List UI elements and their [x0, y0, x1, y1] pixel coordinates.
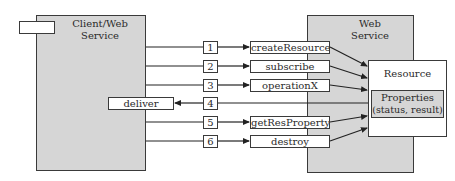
- callback-deliver: deliver: [108, 97, 174, 110]
- step-number-5: 5: [203, 116, 218, 129]
- properties-box: Properties (status, result): [371, 90, 444, 118]
- step-number-3: 3: [203, 79, 218, 92]
- step-number-2: 2: [203, 60, 218, 73]
- resource-title: Resource: [368, 68, 447, 80]
- step-number-1: 1: [203, 41, 218, 54]
- step-number-6: 6: [203, 135, 218, 148]
- method-operation-x: operationX: [250, 79, 330, 92]
- step-number-4: 4: [203, 97, 218, 110]
- method-get-res-property: getResProperty: [250, 116, 330, 129]
- method-destroy: destroy: [250, 135, 330, 148]
- properties-line2: (status, result): [372, 104, 443, 116]
- method-create-resource: createResource: [250, 41, 330, 54]
- method-subscribe: subscribe: [250, 60, 330, 73]
- properties-line1: Properties: [372, 92, 443, 104]
